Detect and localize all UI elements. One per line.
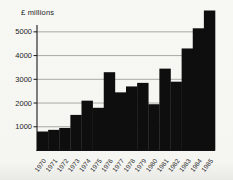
bar-1975 xyxy=(93,108,104,151)
bar-1983 xyxy=(182,48,193,150)
scanned-page: £ millions 10002000300040005000197019711… xyxy=(0,0,233,180)
x-axis-tick-labels: 1970197119721973197419751976197719781979… xyxy=(33,157,215,173)
bar-chart: 1000200030004000500019701971197219731974… xyxy=(0,0,233,180)
y-tick-label-2000: 2000 xyxy=(15,99,32,108)
bar-1970 xyxy=(37,132,48,151)
bar-1976 xyxy=(104,72,115,150)
bar-1977 xyxy=(115,92,126,150)
bar-1978 xyxy=(126,86,137,150)
bar-1971 xyxy=(48,130,59,151)
bar-1981 xyxy=(159,69,170,151)
bar-1973 xyxy=(70,115,81,151)
bar-1974 xyxy=(82,101,93,151)
bar-1982 xyxy=(171,82,182,151)
y-tick-label-4000: 4000 xyxy=(15,51,32,60)
bar-1985 xyxy=(204,11,215,151)
x-tick-label-1985: 1985 xyxy=(200,157,215,173)
y-axis-tick-labels: 10002000300040005000 xyxy=(15,27,32,131)
y-tick-label-1000: 1000 xyxy=(15,122,32,131)
bar-1979 xyxy=(137,83,148,151)
bar-1972 xyxy=(59,128,70,151)
bar-1980 xyxy=(148,104,159,150)
y-tick-label-5000: 5000 xyxy=(15,27,32,36)
y-tick-label-3000: 3000 xyxy=(15,75,32,84)
bar-1984 xyxy=(193,28,204,150)
